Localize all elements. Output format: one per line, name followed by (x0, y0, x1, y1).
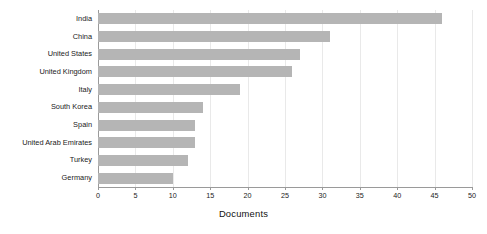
category-label: South Korea (0, 103, 92, 110)
category-label: Italy (0, 86, 92, 93)
x-tick-mark (397, 187, 398, 190)
x-tick-mark (360, 187, 361, 190)
category-label: United States (0, 50, 92, 57)
bar (98, 173, 173, 184)
category-label: United Kingdom (0, 68, 92, 75)
x-tick-label: 0 (96, 191, 100, 200)
category-label: United Arab Emirates (0, 139, 92, 146)
bar-row (98, 99, 472, 117)
x-tick-label: 20 (244, 191, 252, 200)
bar-row (98, 28, 472, 46)
bar (98, 120, 195, 131)
x-tick-label: 10 (169, 191, 177, 200)
x-tick-label: 45 (431, 191, 439, 200)
category-label: India (0, 15, 92, 22)
x-tick-label: 5 (133, 191, 137, 200)
bar (98, 137, 195, 148)
x-tick-mark (248, 187, 249, 190)
x-tick-label: 25 (281, 191, 289, 200)
bar (98, 84, 240, 95)
x-tick-mark (285, 187, 286, 190)
x-tick-label: 30 (318, 191, 326, 200)
bar-row (98, 116, 472, 134)
x-tick-mark (472, 187, 473, 190)
category-axis-labels: IndiaChinaUnited StatesUnited KingdomIta… (0, 10, 92, 187)
bar-row (98, 134, 472, 152)
category-label: Turkey (0, 156, 92, 163)
bar (98, 31, 330, 42)
bar (98, 66, 292, 77)
x-tick-mark (173, 187, 174, 190)
x-tick-mark (210, 187, 211, 190)
x-tick-mark (322, 187, 323, 190)
category-label: Spain (0, 121, 92, 128)
x-axis-title: Documents (0, 208, 487, 219)
x-tick-mark (435, 187, 436, 190)
gridline (472, 10, 473, 187)
bar-row (98, 169, 472, 187)
plot-area (98, 10, 472, 187)
bar-row (98, 63, 472, 81)
bar-chart: IndiaChinaUnited StatesUnited KingdomIta… (0, 0, 487, 234)
category-label: Germany (0, 174, 92, 181)
bar-row (98, 81, 472, 99)
bar-row (98, 10, 472, 28)
x-tick-label: 40 (393, 191, 401, 200)
bar-row (98, 152, 472, 170)
bar (98, 102, 203, 113)
bar-row (98, 45, 472, 63)
x-tick-mark (98, 187, 99, 190)
category-label: China (0, 33, 92, 40)
bar (98, 155, 188, 166)
x-tick-mark (135, 187, 136, 190)
bar (98, 13, 442, 24)
bar (98, 49, 300, 60)
x-tick-label: 35 (356, 191, 364, 200)
x-tick-label: 15 (206, 191, 214, 200)
x-tick-label: 50 (468, 191, 476, 200)
